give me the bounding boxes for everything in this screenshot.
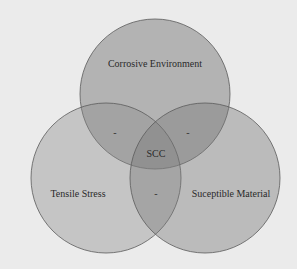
label-intersection-top-left: - xyxy=(113,127,116,138)
label-intersection-top-right: - xyxy=(186,127,189,138)
label-intersection-center-scc: SCC xyxy=(147,148,166,159)
label-suceptible-material: Suceptible Material xyxy=(192,188,271,199)
label-corrosive-environment: Corrosive Environment xyxy=(108,58,202,69)
venn-diagram: Corrosive Environment Tensile Stress Suc… xyxy=(0,0,297,269)
label-intersection-left-right: - xyxy=(154,188,157,199)
label-tensile-stress: Tensile Stress xyxy=(50,188,105,199)
circle-suceptible-material xyxy=(130,103,280,253)
